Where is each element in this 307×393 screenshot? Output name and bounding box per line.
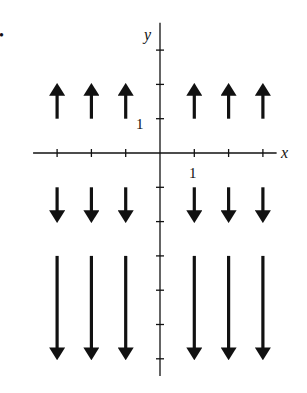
y-tick-label-1: 1 [136, 116, 144, 132]
x-axis-label: x [280, 144, 288, 161]
figure-marker: • [0, 28, 4, 43]
axes [33, 23, 277, 376]
y-axis-label: y [142, 26, 152, 44]
vector-field-diagram: • y x 1 1 [0, 0, 307, 393]
x-tick-label-1: 1 [189, 165, 197, 181]
